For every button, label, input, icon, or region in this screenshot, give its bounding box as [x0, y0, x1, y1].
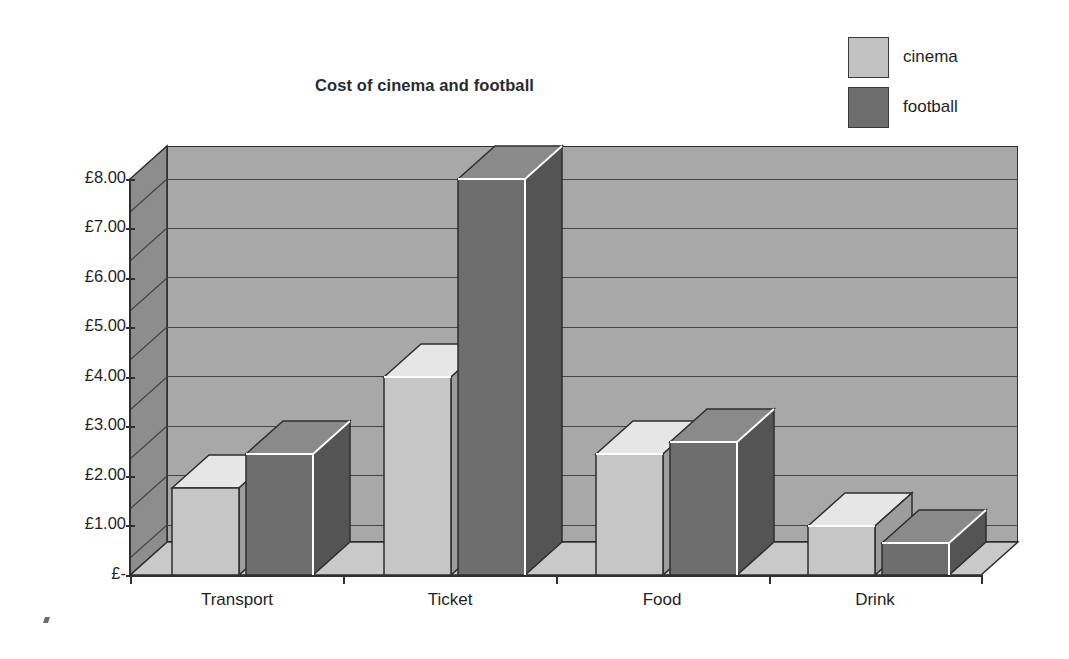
y-tick-label-2: £2.00 — [34, 465, 126, 484]
y-tick-3 — [126, 426, 135, 428]
y-tick-5 — [126, 327, 135, 329]
y-tick-4 — [126, 377, 135, 379]
y-tick-label-5: £5.00 — [34, 316, 126, 335]
x-tick-1 — [343, 575, 345, 584]
x-tick-0 — [130, 575, 132, 584]
x-tick-label-food: Food — [643, 590, 682, 610]
x-tick-3 — [769, 575, 771, 584]
x-tick-label-drink: Drink — [855, 590, 895, 610]
y-tick-label-8: £8.00 — [34, 168, 126, 187]
bar-drink-football-3d — [882, 0, 1042, 659]
y-axis-labels: £8.00 £7.00 £6.00 £5.00 £4.00 £3.00 £2.0… — [0, 0, 126, 659]
y-tick-label-4: £4.00 — [34, 366, 126, 385]
x-tick-label-transport: Transport — [201, 590, 273, 610]
y-tick-7 — [126, 228, 135, 230]
y-tick-2 — [126, 476, 135, 478]
y-tick-8 — [126, 179, 135, 181]
x-tick-2 — [556, 575, 558, 584]
bar-transport-football-3d — [246, 0, 406, 659]
y-tick-label-7: £7.00 — [34, 217, 126, 236]
y-tick-label-3: £3.00 — [34, 415, 126, 434]
y-tick-1 — [126, 525, 135, 527]
bar-ticket-football-3d — [458, 0, 618, 659]
bar-food-football-3d — [670, 0, 830, 659]
chart-container: Cost of cinema and football cinema footb… — [0, 0, 1069, 659]
x-tick-4 — [981, 575, 983, 584]
x-tick-label-ticket: Ticket — [428, 590, 473, 610]
y-tick-6 — [126, 278, 135, 280]
y-tick-label-6: £6.00 — [34, 267, 126, 286]
y-tick-label-1: £1.00 — [34, 514, 126, 533]
y-tick-label-0: £- — [34, 564, 126, 583]
